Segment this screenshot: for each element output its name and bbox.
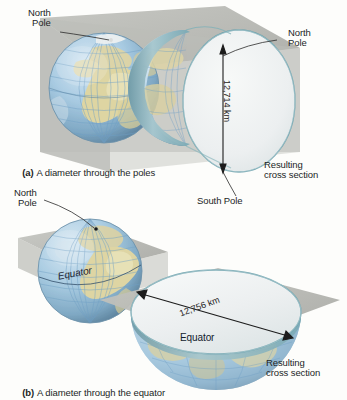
caption-panel-a: (a)A diameter through the poles <box>12 158 155 188</box>
label-equator-cross-section: Equator <box>180 333 214 344</box>
label-resulting-cross-section-a: Resulting cross section <box>264 160 318 180</box>
earth-cross-section-illustration <box>0 0 347 400</box>
label-north-pole-globe-a: North Pole <box>28 8 51 28</box>
label-south-pole: South Pole <box>197 196 242 206</box>
figure-canvas: North Pole North Pole 12,714 km (a)A dia… <box>0 0 347 400</box>
label-north-pole-globe-b: North Pole <box>14 188 37 208</box>
cross-section-face-poles <box>183 30 295 172</box>
label-resulting-cross-section-b: Resulting cross section <box>266 358 320 378</box>
north-pole-marker-b <box>94 227 98 231</box>
dimension-label-polar-diameter: 12,714 km <box>222 80 232 122</box>
caption-panel-b-text: A diameter through the equator <box>37 387 165 398</box>
label-north-pole-section-a: North Pole <box>288 28 311 48</box>
caption-panel-b: (b)A diameter through the equator <box>12 378 165 400</box>
caption-panel-a-text: A diameter through the poles <box>36 167 155 178</box>
caption-panel-b-prefix: (b) <box>22 387 34 398</box>
caption-panel-a-prefix: (a) <box>22 167 33 178</box>
cross-section-face-equator <box>131 270 301 354</box>
